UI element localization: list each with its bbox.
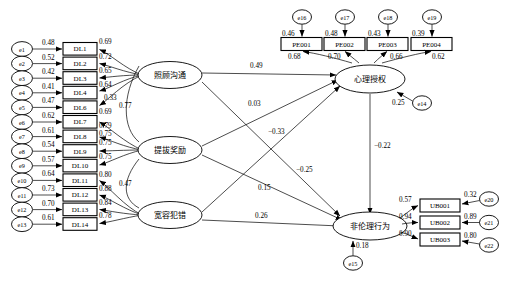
top-error-group: e16 0.46 e17 0.48 e18 0.43 e19 0.39	[282, 10, 442, 38]
e7-label: e7	[19, 133, 25, 140]
DL4-loading: 0.64	[99, 81, 112, 89]
e8-label: e8	[19, 148, 25, 155]
pe-indicator-group: PE001 0.68 PE002 0.70 PE003 0.66 PE004 0…	[281, 38, 452, 64]
latent-f1[interactable]: 照顾沟通	[138, 62, 202, 89]
e7-value: 0.61	[42, 127, 55, 135]
DL9-label: DL9	[74, 148, 87, 156]
e10-value: 0.64	[42, 170, 55, 178]
DL6-loading: 0.69	[99, 108, 112, 116]
DL13-loading: 0.84	[99, 199, 112, 207]
latent-f5[interactable]: 非伦理行为	[333, 212, 407, 240]
f4-label: 心理授权	[354, 74, 386, 84]
f1-label: 照顾沟通	[154, 70, 186, 80]
e3-value: 0.42	[42, 68, 55, 76]
PE001-label: PE001	[292, 41, 311, 49]
indicator-UB002[interactable]: UB002 0.94	[399, 213, 460, 229]
e15-value: 0.18	[356, 242, 369, 250]
e13-label: e13	[18, 221, 27, 228]
path-f2-f5-value: −0.25	[296, 166, 313, 174]
DL2-loading: 0.72	[99, 53, 112, 61]
PE004-loading: 0.62	[432, 53, 445, 61]
disturbance-e14[interactable]: e14 0.25	[392, 92, 432, 110]
sem-path-diagram: e1 0.48 e2 0.52 e3 0.42 e4 0.41 e5 0.47	[0, 0, 510, 281]
error-term-e18[interactable]: e18 0.43	[368, 10, 398, 38]
latent-f2[interactable]: 提拔奖励	[138, 137, 202, 164]
DL12-label: DL12	[72, 191, 89, 199]
e12-value: 0.70	[42, 200, 55, 208]
path-f1-f4-value: 0.49	[250, 62, 263, 70]
e4-value: 0.41	[42, 83, 55, 91]
DL13-label: DL13	[72, 206, 89, 214]
PE003-label: PE003	[378, 41, 397, 49]
UB003-label: UB003	[430, 236, 451, 244]
e16-value: 0.46	[282, 30, 295, 38]
left-error-group: e1 0.48 e2 0.52 e3 0.42 e4 0.41 e5 0.47	[12, 39, 63, 232]
DL11-label: DL11	[72, 177, 89, 185]
error-term-e17[interactable]: e17 0.48	[325, 10, 355, 38]
e19-label: e19	[428, 14, 437, 21]
e1-value: 0.48	[42, 39, 55, 47]
UB003-loading: 0.90	[399, 230, 412, 238]
DL6-label: DL6	[74, 104, 87, 112]
e18-label: e18	[384, 14, 393, 21]
error-term-e16[interactable]: e16 0.46	[282, 10, 312, 38]
DL2-label: DL2	[74, 60, 87, 68]
e4-label: e4	[19, 89, 25, 96]
path-f3-f4-value: 0.15	[258, 184, 271, 192]
path-f2-f5-arrow	[202, 155, 342, 220]
path-f1-f4-arrow	[202, 73, 336, 75]
indicator-PE002[interactable]: PE002 0.70	[324, 38, 365, 64]
e8-value: 0.54	[42, 141, 55, 149]
ub-indicator-group: UB001 0.57 UB002 0.94 UB003 0.90 e20 0.3…	[399, 191, 499, 252]
error-term-e21[interactable]: e21 0.89	[462, 213, 499, 230]
e13-value: 0.61	[42, 214, 55, 222]
f5-label: 非伦理行为	[350, 221, 390, 231]
e5-value: 0.47	[42, 97, 55, 105]
PE004-label: PE004	[422, 41, 441, 49]
DL10-label: DL10	[72, 162, 89, 170]
f3-label: 宽容犯错	[154, 210, 186, 220]
error-term-e19[interactable]: e19 0.39	[412, 10, 442, 38]
DL3-loading: 0.65	[99, 67, 112, 75]
e20-value: 0.32	[464, 191, 477, 199]
indicator-PE003[interactable]: PE003 0.66	[367, 38, 408, 64]
error-term-e13[interactable]: e13 0.61	[12, 214, 63, 231]
e6-label: e6	[19, 119, 25, 126]
path-f3-f5-arrow	[202, 220, 340, 226]
latent-f4[interactable]: 心理授权	[335, 65, 405, 93]
DL8-label: DL8	[74, 133, 87, 141]
e14-value: 0.25	[392, 99, 405, 107]
error-term-e20[interactable]: e20 0.32	[462, 191, 499, 206]
DL3-label: DL3	[74, 75, 87, 83]
e15-label: e15	[349, 260, 358, 267]
e2-value: 0.52	[42, 54, 55, 62]
e12-label: e12	[18, 206, 27, 213]
UB002-loading: 0.94	[399, 213, 412, 221]
DL14-loading: 0.78	[99, 212, 112, 220]
e6-value: 0.62	[42, 112, 55, 120]
e18-value: 0.43	[368, 30, 381, 38]
disturbance-e15[interactable]: e15 0.18	[344, 241, 369, 270]
latent-f3[interactable]: 宽容犯错	[138, 202, 202, 229]
e1-label: e1	[19, 46, 25, 53]
f2-label: 提拔奖励	[154, 145, 186, 155]
PE002-loading: 0.70	[328, 53, 341, 61]
PE001-loading: 0.68	[288, 53, 301, 61]
covariance-f1-f2-value: 0.77	[119, 102, 132, 110]
e5-label: e5	[19, 104, 25, 111]
e22-label: e22	[485, 242, 494, 249]
e14-label: e14	[418, 100, 427, 107]
e20-label: e20	[485, 196, 494, 203]
e19-value: 0.39	[412, 30, 425, 38]
UB001-loading: 0.57	[399, 196, 412, 204]
indicator-UB003[interactable]: UB003 0.90	[399, 230, 460, 246]
e21-label: e21	[485, 219, 494, 226]
error-term-e22[interactable]: e22 0.80	[462, 232, 499, 252]
PE002-label: PE002	[335, 41, 354, 49]
DL6-loading-arrow	[100, 75, 143, 106]
UB002-label: UB002	[430, 219, 451, 227]
DL8-loading: 0.75	[99, 130, 112, 138]
e9-label: e9	[19, 162, 25, 169]
e22-arrow	[462, 241, 480, 244]
path-f3-f5-value: 0.26	[255, 212, 268, 220]
